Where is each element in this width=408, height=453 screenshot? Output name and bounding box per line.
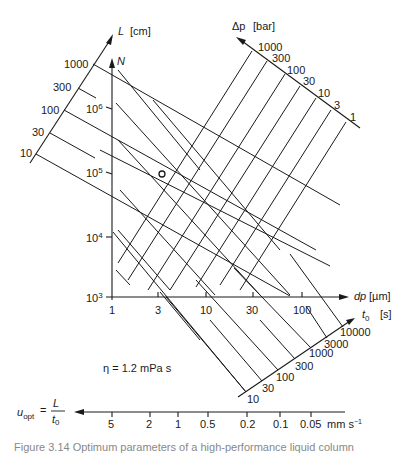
dp-axis-label: dp bbox=[354, 290, 366, 302]
t0-tick-1000: 1000 bbox=[309, 347, 333, 359]
uopt-tick-0.5: 0.5 bbox=[200, 418, 215, 430]
N-axis-label: N bbox=[117, 55, 125, 67]
uopt-tick-0.05: 0.05 bbox=[300, 418, 321, 430]
deltap-tick-3: 3 bbox=[334, 99, 340, 111]
t0-tick-30: 30 bbox=[262, 382, 274, 394]
t0-tick-300: 300 bbox=[295, 360, 313, 372]
N-axis bbox=[106, 58, 115, 300]
L-axis-unit: [cm] bbox=[130, 25, 151, 37]
L-tick-10: 10 bbox=[20, 147, 32, 159]
uopt-denominator: t0 bbox=[52, 413, 60, 427]
N-tick-1e5: 105 bbox=[86, 166, 103, 179]
L-tick-30: 30 bbox=[32, 126, 44, 138]
dp-tick-100: 100 bbox=[293, 304, 311, 316]
uopt-tick-0.2: 0.2 bbox=[240, 418, 255, 430]
uopt-tick-1: 1 bbox=[175, 418, 181, 430]
dp-tick-30: 30 bbox=[246, 304, 258, 316]
marked-point bbox=[159, 171, 165, 177]
dp-tick-1: 1 bbox=[109, 304, 115, 316]
dp-tick-10: 10 bbox=[200, 304, 212, 316]
deltap-axis-label: Δp bbox=[232, 20, 245, 32]
t0-tick-100: 100 bbox=[276, 371, 294, 383]
L-axis-label: L bbox=[118, 25, 124, 37]
L-tick-1000: 1000 bbox=[64, 58, 88, 70]
N-tick-1e6: 106 bbox=[86, 102, 103, 115]
deltap-axis bbox=[236, 37, 360, 128]
t0-axis-label: t0 bbox=[362, 308, 370, 323]
uopt-axis bbox=[74, 409, 345, 417]
t0-tick-10000: 10000 bbox=[340, 326, 371, 338]
uopt-equals: = bbox=[40, 404, 46, 416]
figure-caption: Figure 3.14 Optimum parameters of a high… bbox=[14, 441, 354, 453]
t0-axis bbox=[238, 318, 355, 397]
N-tick-1e4: 104 bbox=[86, 231, 103, 244]
t0-isolines bbox=[166, 254, 343, 392]
uopt-tick-5: 5 bbox=[108, 418, 114, 430]
uopt-tick-2: 2 bbox=[146, 418, 152, 430]
uopt-unit: mm s−1 bbox=[327, 418, 362, 430]
dp-axis-unit: [µm] bbox=[369, 290, 391, 302]
deltap-tick-1: 1 bbox=[350, 111, 356, 123]
N-tick-1e3: 103 bbox=[86, 291, 103, 304]
uopt-tick-0.1: 0.1 bbox=[273, 418, 288, 430]
t0-axis-unit: [s] bbox=[380, 308, 392, 320]
uopt-label: uopt bbox=[17, 406, 35, 421]
uopt-numerator: L bbox=[53, 397, 59, 409]
t0-tick-10: 10 bbox=[247, 393, 259, 405]
viscosity-label: η = 1.2 mPa s bbox=[103, 362, 172, 374]
dp-tick-3: 3 bbox=[155, 304, 161, 316]
deltap-tick-30: 30 bbox=[303, 75, 315, 87]
deltap-axis-unit: [bar] bbox=[253, 20, 275, 32]
N-dp-isolines bbox=[100, 70, 330, 392]
deltap-tick-300: 300 bbox=[272, 52, 290, 64]
deltap-tick-10: 10 bbox=[318, 87, 330, 99]
L-tick-100: 100 bbox=[41, 104, 59, 116]
L-tick-300: 300 bbox=[53, 81, 71, 93]
dp-axis bbox=[106, 292, 349, 300]
L-axis bbox=[30, 34, 113, 163]
